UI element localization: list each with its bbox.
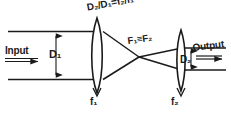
diverging-ray-bundle bbox=[139, 48, 182, 70]
first-lens-label: f₁ bbox=[90, 97, 97, 107]
diagram-canvas bbox=[0, 0, 231, 114]
output-direction-arrow bbox=[196, 56, 222, 59]
output-diameter-label: D₂ bbox=[180, 55, 191, 65]
input-diameter-label: D₁ bbox=[49, 49, 61, 60]
converging-ray-lower bbox=[103, 57, 139, 80]
beam-expander-figure: D₂/D₁=f₂/f₁ F₁≡F₂ Input Output D₁ D₂ f₁ … bbox=[0, 0, 231, 114]
input-label: Input bbox=[5, 46, 28, 56]
diverging-ray-upper bbox=[139, 48, 182, 57]
lens-callout-ticks bbox=[93, 88, 185, 96]
second-lens-label: f₂ bbox=[171, 97, 178, 107]
first-converging-lens bbox=[92, 18, 103, 93]
diverging-ray-lower bbox=[139, 57, 182, 70]
input-direction-arrow bbox=[5, 59, 38, 62]
